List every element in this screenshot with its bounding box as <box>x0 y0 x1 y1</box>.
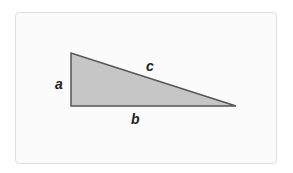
side-b-label: b <box>131 111 140 127</box>
side-c-label: c <box>146 58 154 74</box>
triangle-diagram: a b c <box>0 0 293 173</box>
side-a-label: a <box>55 76 63 92</box>
